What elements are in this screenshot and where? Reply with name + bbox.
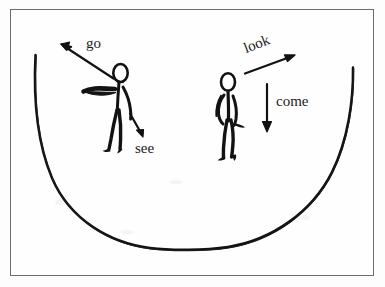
left-figure-head [113,64,127,82]
right-figure-right-hand [234,124,245,128]
see-arrow [130,114,144,138]
left-figure-right-foot [117,148,122,154]
look-arrow [245,55,295,74]
go-arrowhead-upper [61,42,70,48]
left-figure-right-leg [119,110,121,149]
left-figure [84,64,131,154]
right-figure [216,73,245,161]
see-arrowhead [137,130,144,138]
left-figure-pointing-arm [84,88,116,91]
label-go: go [86,36,101,51]
label-see: see [135,141,154,156]
right-figure-left-leg [223,120,227,158]
left-figure-left-leg [109,110,117,149]
come-arrow [263,84,272,132]
come-arrowhead [263,122,272,133]
left-figure-hand [84,92,116,96]
label-come: come [276,94,308,109]
u-curve [35,55,354,251]
right-figure-torso [228,91,229,121]
hand-drawn-illustration-canvas [0,0,385,287]
left-figure-torso [117,82,119,112]
figure-root: go see look come [0,0,385,287]
right-figure-right-arm [233,96,236,126]
right-figure-right-leg [231,120,233,157]
look-arrowhead [285,55,296,62]
left-figure-left-foot [103,148,111,152]
right-figure-head [221,73,235,91]
